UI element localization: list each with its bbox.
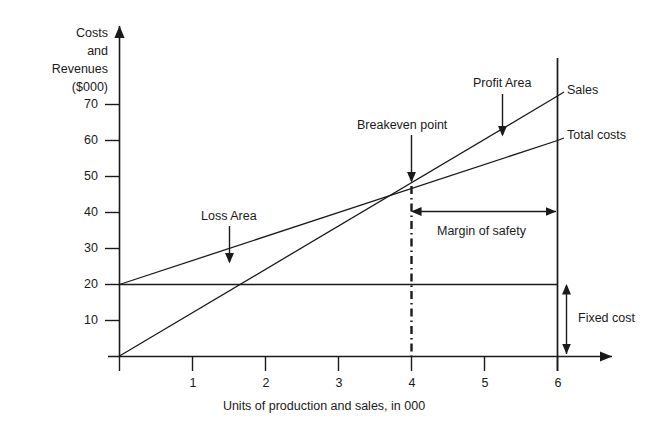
x-tick-label-5: 5 xyxy=(475,376,495,390)
sales-label-leader xyxy=(558,92,565,96)
y-axis-title-line-1: Costs xyxy=(14,24,108,42)
x-tick-label-2: 2 xyxy=(256,376,276,390)
annotation-loss-area: Loss Area xyxy=(201,209,257,223)
breakeven-chart: Costs and Revenues ($000) 70 60 50 40 30… xyxy=(0,0,648,431)
y-axis-title-line-4: ($000) xyxy=(14,78,108,96)
y-axis-title-line-2: and xyxy=(14,42,108,60)
x-tick-label-3: 3 xyxy=(329,376,349,390)
annotation-breakeven-point: Breakeven point xyxy=(357,118,447,132)
y-tick-label-30: 30 xyxy=(68,241,98,255)
series-label-sales: Sales xyxy=(567,83,598,97)
y-tick-label-60: 60 xyxy=(68,133,98,147)
y-axis-title-line-3: Revenues xyxy=(14,60,108,78)
x-axis-title: Units of production and sales, in 000 xyxy=(0,399,648,413)
x-tick-label-6: 6 xyxy=(548,376,568,390)
total-costs-line xyxy=(120,141,558,285)
y-tick-label-40: 40 xyxy=(68,205,98,219)
y-axis-title: Costs and Revenues ($000) xyxy=(14,24,108,96)
y-tick-label-50: 50 xyxy=(68,169,98,183)
x-axis xyxy=(108,356,612,371)
annotation-profit-area: Profit Area xyxy=(473,76,531,90)
x-tick-label-1: 1 xyxy=(183,376,203,390)
total-costs-label-leader xyxy=(558,138,565,141)
series-label-total-costs: Total costs xyxy=(567,128,626,142)
annotation-fixed-cost: Fixed cost xyxy=(578,311,635,325)
x-tick-label-4: 4 xyxy=(402,376,422,390)
y-tick-label-70: 70 xyxy=(68,97,98,111)
annotation-margin-of-safety: Margin of safety xyxy=(437,224,526,238)
y-tick-label-10: 10 xyxy=(68,313,98,327)
y-tick-label-20: 20 xyxy=(68,277,98,291)
